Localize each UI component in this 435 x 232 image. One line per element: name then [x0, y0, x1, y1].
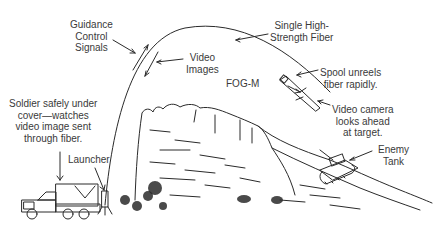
label-line: FOG-M [226, 78, 259, 89]
enemy-tank-label: Enemy Tank [378, 144, 409, 167]
label-line: Video camera [332, 104, 394, 116]
label-line: Enemy [378, 144, 409, 156]
fiber-label: Single High- Strength Fiber [270, 20, 333, 43]
video-images-arrow-icon [145, 52, 158, 76]
truck-icon [22, 184, 100, 219]
label-line: Soldier safely under [9, 98, 97, 110]
spool-label: Spool unreels fiber rapidly. [320, 67, 381, 90]
video-camera-label: Video camera looks ahead at target. [332, 104, 394, 139]
label-line: Control [70, 31, 113, 43]
label-line: video image sent [9, 121, 97, 133]
label-line: cover—watches [9, 110, 97, 122]
launcher-label: Launcher [68, 154, 110, 166]
guidance-pointer-arrow-icon [113, 40, 135, 53]
label-line: Spool unreels [320, 67, 381, 79]
label-line: through fiber. [9, 133, 97, 145]
guidance-signal-arrow-icon [133, 45, 148, 70]
tank-pointer-arrow-icon [350, 151, 372, 160]
video-pointer-arrow-icon [157, 59, 183, 64]
fogm-diagram: Guidance Control Signals Single High- St… [0, 0, 435, 232]
label-line: looks ahead [332, 116, 394, 128]
label-line: Video [186, 52, 219, 64]
soldier-label: Soldier safely under cover—watches video… [9, 98, 97, 144]
fogm-label: FOG-M [226, 78, 259, 90]
label-line: Tank [378, 156, 409, 168]
label-line: fiber rapidly. [320, 79, 381, 91]
video-images-label: Video Images [186, 52, 219, 75]
launcher-pointer-arrow-icon [95, 168, 105, 190]
label-line: Single High- [270, 20, 333, 32]
camera-pointer-arrow-icon [318, 100, 330, 105]
guidance-signals-label: Guidance Control Signals [70, 19, 113, 54]
fogm-missile-icon [280, 75, 320, 111]
soldier-pointer-arrow-icon [57, 152, 63, 180]
label-line: Images [186, 64, 219, 76]
enemy-tank-icon [320, 150, 358, 184]
label-line: Launcher [68, 154, 110, 165]
label-line: at target. [332, 127, 394, 139]
label-line: Guidance [70, 19, 113, 31]
tree-bush-icons [120, 181, 283, 211]
label-line: Strength Fiber [270, 32, 333, 44]
label-line: Signals [70, 42, 113, 54]
